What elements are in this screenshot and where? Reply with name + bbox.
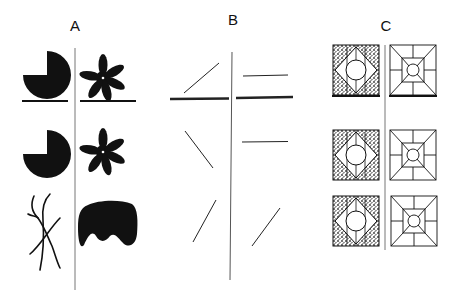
horizontal-line <box>242 142 288 143</box>
panel-b-divider <box>230 52 232 280</box>
diagonal-line <box>184 63 219 93</box>
diagonal-line <box>185 131 213 168</box>
panel-b <box>170 52 293 280</box>
flower-shape <box>79 54 127 102</box>
figure-canvas <box>0 0 453 294</box>
nested-square-tile <box>391 196 437 246</box>
pacman-shape <box>23 51 71 99</box>
nested-square-tile <box>390 130 436 180</box>
nested-square-tile <box>390 45 436 95</box>
diagonal-line <box>193 200 216 242</box>
horizontal-line <box>243 75 288 76</box>
thick-horizontal-right <box>236 97 293 98</box>
stippled-diamond-tile <box>333 130 379 180</box>
panel-a <box>22 48 137 290</box>
flower-shape <box>79 128 127 176</box>
panel-c <box>332 45 437 250</box>
stippled-diamond-tile <box>333 45 379 95</box>
diagonal-line <box>252 208 280 246</box>
stippled-diamond-tile <box>333 196 379 246</box>
thick-horizontal-left <box>170 99 229 100</box>
twig-lines <box>28 194 60 270</box>
blob-shape <box>78 201 137 247</box>
pacman-shape <box>23 130 71 178</box>
